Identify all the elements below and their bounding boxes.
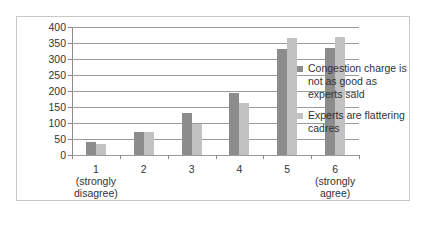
x-tick-label-line: 6 [305,163,365,175]
bar-series-2 [144,132,154,155]
y-tick [68,139,72,140]
bar-series-2 [96,144,106,155]
gridline [72,27,359,28]
y-tick [68,75,72,76]
y-tick-label: 100 [26,117,66,129]
x-tick-label-line: (strongly [66,175,126,187]
bar-series-2 [239,103,249,155]
gridline [72,59,359,60]
bar-series-1 [229,93,239,155]
x-tick [263,155,264,159]
gridline [72,107,359,108]
y-tick [68,59,72,60]
y-tick-label: 250 [26,69,66,81]
gridline [72,139,359,140]
legend-label: Experts are flattering cadres [308,109,408,135]
x-tick [311,155,312,159]
x-tick [216,155,217,159]
y-tick [68,43,72,44]
y-tick-label: 50 [26,133,66,145]
x-tick [359,155,360,159]
x-tick [120,155,121,159]
x-tick [72,155,73,159]
y-tick [68,91,72,92]
x-tick-label-line: disagree) [66,187,126,199]
bar-series-2 [287,38,297,155]
y-tick [68,123,72,124]
bar-series-1 [86,142,96,155]
y-tick-label: 150 [26,101,66,113]
x-tick-label: 6(stronglyagree) [305,163,365,199]
y-tick-label: 400 [26,21,66,33]
x-tick-label-line: (strongly [305,175,365,187]
gridline [72,43,359,44]
y-tick [68,27,72,28]
y-tick-label: 300 [26,53,66,65]
y-tick-label: 350 [26,37,66,49]
bar-series-1 [277,49,287,155]
bar-series-1 [134,132,144,155]
y-tick-label: 200 [26,85,66,97]
x-tick [168,155,169,159]
y-tick-label: 0 [26,149,66,161]
y-tick [68,107,72,108]
legend-swatch-icon [297,113,303,119]
bar-series-2 [192,124,202,155]
legend-swatch-icon [297,66,303,72]
bar-series-1 [182,113,192,155]
x-tick-label-line: agree) [305,187,365,199]
legend-label: Congestion charge is not as good as expe… [308,62,408,101]
